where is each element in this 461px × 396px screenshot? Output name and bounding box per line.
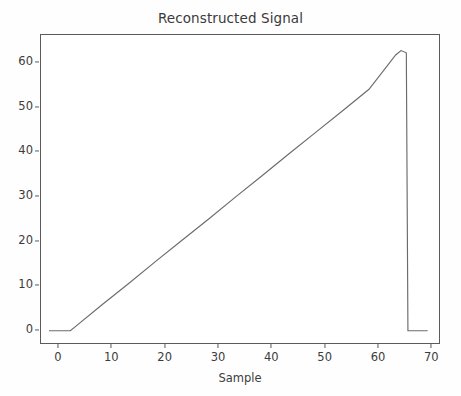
- x-axis-label: Sample: [40, 371, 440, 385]
- y-tick-mark-30: [35, 195, 39, 196]
- y-tick-mark-20: [35, 240, 39, 241]
- x-tick-label-20: 20: [157, 352, 172, 364]
- y-tick-mark-10: [35, 285, 39, 286]
- y-tick-label-10: 10: [18, 280, 33, 292]
- signal-line: [49, 51, 428, 331]
- x-tick-mark-60: [377, 344, 378, 348]
- signal-plot-svg: [41, 35, 441, 345]
- chart-title: Reconstructed Signal: [0, 10, 461, 26]
- x-tick-label-30: 30: [211, 352, 226, 364]
- x-tick-label-10: 10: [104, 352, 119, 364]
- x-tick-mark-20: [164, 344, 165, 348]
- y-tick-label-20: 20: [18, 235, 33, 247]
- x-tick-label-60: 60: [371, 352, 386, 364]
- x-tick-mark-50: [324, 344, 325, 348]
- y-tick-label-0: 0: [26, 324, 33, 336]
- y-tick-label-60: 60: [18, 56, 33, 68]
- x-tick-mark-70: [431, 344, 432, 348]
- x-tick-label-0: 0: [54, 352, 61, 364]
- x-tick-mark-10: [111, 344, 112, 348]
- x-tick-label-50: 50: [317, 352, 332, 364]
- y-tick-mark-60: [35, 61, 39, 62]
- plot-area: [40, 34, 440, 344]
- y-tick-mark-40: [35, 151, 39, 152]
- y-tick-label-50: 50: [18, 101, 33, 113]
- y-tick-label-40: 40: [18, 146, 33, 158]
- x-tick-mark-0: [57, 344, 58, 348]
- y-tick-mark-50: [35, 106, 39, 107]
- y-axis-tick-labels: 0 10 20 30 40 50 60: [0, 0, 33, 396]
- x-tick-label-40: 40: [264, 352, 279, 364]
- x-tick-mark-40: [271, 344, 272, 348]
- chart-figure: Reconstructed Signal 0 10 20 30 40 50 60…: [0, 0, 461, 396]
- y-tick-mark-0: [35, 329, 39, 330]
- x-tick-mark-30: [217, 344, 218, 348]
- y-tick-label-30: 30: [18, 190, 33, 202]
- x-tick-label-70: 70: [424, 352, 439, 364]
